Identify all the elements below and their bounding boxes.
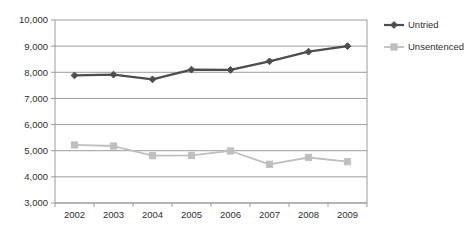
x-tick-label: 2002 [64,209,85,220]
legend-item-unsentenced[interactable]: Unsentenced [384,41,464,52]
y-tick-label: 10,000 [19,14,48,25]
y-tick-label: 4,000 [24,171,48,182]
line-chart: 3,0004,0005,0006,0007,0008,0009,00010,00… [0,0,472,238]
y-tick-label: 8,000 [24,67,48,78]
legend-label: Untried [408,19,439,30]
legend-item-untried[interactable]: Untried [384,19,439,30]
plot-frame [55,20,367,203]
data-point-marker [227,148,233,154]
data-point-marker [71,142,77,148]
legend-marker-square-icon [391,44,397,50]
y-tick-marks [51,20,55,203]
data-point-marker [344,159,350,165]
legend-marker-diamond-icon [391,22,398,29]
x-tick-marks [55,203,367,207]
y-tick-label: 5,000 [24,145,48,156]
y-axis-tick-labels: 3,0004,0005,0006,0007,0008,0009,00010,00… [19,14,48,208]
y-tick-label: 7,000 [24,93,48,104]
x-tick-label: 2009 [337,209,358,220]
y-tick-label: 9,000 [24,41,48,52]
x-tick-label: 2007 [259,209,280,220]
chart-legend: UntriedUnsentenced [384,19,464,52]
data-point-marker [266,161,272,167]
y-tick-label: 3,000 [24,197,48,208]
x-tick-label: 2006 [220,209,241,220]
x-axis-tick-labels: 20022003200420052006200720082009 [64,209,358,220]
data-point-marker [305,154,311,160]
x-tick-label: 2005 [181,209,202,220]
plot-background [55,20,367,203]
x-tick-label: 2004 [142,209,163,220]
legend-label: Unsentenced [408,41,464,52]
chart-container: 3,0004,0005,0006,0007,0008,0009,00010,00… [0,0,472,238]
data-point-marker [188,152,194,158]
x-tick-label: 2008 [298,209,319,220]
data-point-marker [110,143,116,149]
y-tick-label: 6,000 [24,119,48,130]
data-point-marker [149,153,155,159]
x-tick-label: 2003 [103,209,124,220]
